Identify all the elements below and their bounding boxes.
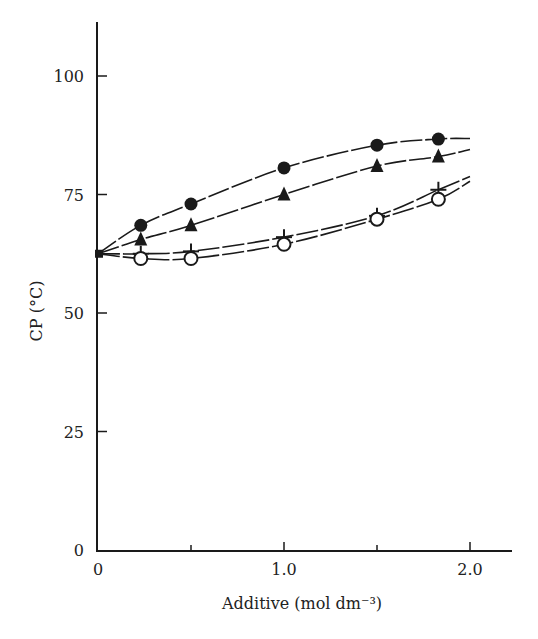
y-tick-label: 100 [53,67,84,86]
x-tick-label: 0 [93,560,103,579]
open-circle-marker [432,193,445,206]
open-circle-marker [134,252,147,265]
y-tick-label: 50 [64,304,84,323]
open-circle-marker [371,213,384,226]
y-axis-title: CP (°C) [27,281,46,342]
y-tick-label: 0 [74,541,84,560]
axes: 025507510001.02.0 [53,22,512,579]
filled-circle-marker [134,219,147,232]
open-circle-marker [278,238,291,251]
y-tick-label: 75 [64,186,84,205]
x-tick-label: 1.0 [271,560,296,579]
cloud-point-chart: 025507510001.02.0 Additive (mol dm⁻³) CP… [0,0,538,639]
filled-circle-marker [371,139,384,152]
filled-circle-marker [278,161,291,174]
filled-circle-marker [432,133,445,146]
origin-marker [95,250,103,258]
y-tick-label: 25 [64,423,84,442]
filled-circle-marker [185,197,198,210]
x-tick-label: 2.0 [457,560,482,579]
x-axis-title: Additive (mol dm⁻³) [221,594,382,613]
open-circle-marker [185,252,198,265]
filled-triangle-marker [134,232,147,246]
